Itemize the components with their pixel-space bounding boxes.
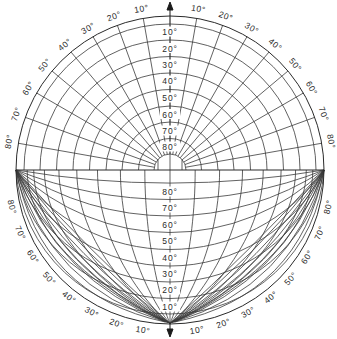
lower-fan-arc [172, 170, 324, 322]
rim-label: 80° [5, 199, 18, 216]
upper-axis-label: 40° [162, 76, 177, 86]
lower-fan-arc [173, 170, 324, 322]
rim-label: 30° [79, 20, 97, 36]
lower-axis-label: 70° [162, 203, 177, 213]
upper-axis-label: 10° [162, 27, 177, 37]
azimuth-meridian [178, 37, 247, 157]
lower-fan-arc [173, 170, 324, 322]
rim-label: 70° [317, 105, 331, 122]
upper-axis-label: 50° [162, 93, 177, 103]
rim-label: 80° [3, 133, 15, 149]
rim-label: 20° [105, 9, 122, 23]
azimuth-meridian [93, 37, 162, 157]
rim-label: 10° [135, 324, 151, 336]
rim-label: 50° [287, 56, 304, 74]
lower-meridian [170, 170, 306, 323]
rim-label: 10° [189, 324, 205, 336]
lower-fan-arc [16, 170, 168, 322]
upper-axis-label: 60° [162, 110, 177, 120]
rim-label: 10° [190, 3, 206, 15]
polar-projection-diagram: 10°20°30°40°50°60°70°80°80°70°60°50°40°3… [0, 0, 337, 339]
upper-axis-label: 30° [162, 60, 177, 70]
lower-meridian [170, 170, 243, 323]
rim-label: 40° [56, 36, 74, 53]
lower-fan-arc [174, 170, 324, 322]
rim-label: 20° [217, 9, 234, 23]
azimuth-meridian [186, 143, 322, 167]
lower-axis-label: 40° [162, 253, 177, 263]
lower-axis-label: 20° [162, 285, 177, 295]
rim-label: 80° [325, 133, 337, 149]
lower-meridian [44, 170, 170, 323]
rim-label: 20° [108, 316, 125, 330]
rim-label: 70° [9, 105, 23, 122]
lower-fan-arc [16, 170, 166, 322]
azimuth-meridian [184, 93, 304, 162]
rim-label: 20° [215, 316, 232, 330]
rim-label: 60° [304, 79, 320, 97]
rim-label: 50° [36, 56, 53, 74]
lower-meridian [34, 170, 170, 323]
lower-meridian [97, 170, 170, 323]
upper-axis-label: 70° [162, 126, 177, 136]
azimuth-meridian [18, 143, 154, 167]
lower-fan-arc [16, 170, 167, 322]
rim-label: 60° [20, 79, 36, 97]
rim-label: 70° [13, 224, 28, 241]
lower-axis-label: 10° [162, 302, 177, 312]
lower-meridian [170, 170, 296, 323]
lower-axis-label: 30° [162, 269, 177, 279]
rim-label: 40° [266, 36, 284, 53]
rim-label: 80° [321, 199, 334, 216]
lower-fan-arc [16, 170, 167, 322]
rim-label: 30° [243, 20, 261, 36]
upper-axis-label: 80° [162, 142, 177, 152]
rim-label: 70° [312, 224, 327, 241]
lower-axis-label: 60° [162, 220, 177, 230]
azimuth-meridian [37, 93, 157, 162]
lower-axis-label: 50° [162, 236, 177, 246]
lower-axis-label: 80° [162, 187, 177, 197]
rim-label: 10° [133, 3, 149, 15]
upper-axis-label: 20° [162, 44, 177, 54]
